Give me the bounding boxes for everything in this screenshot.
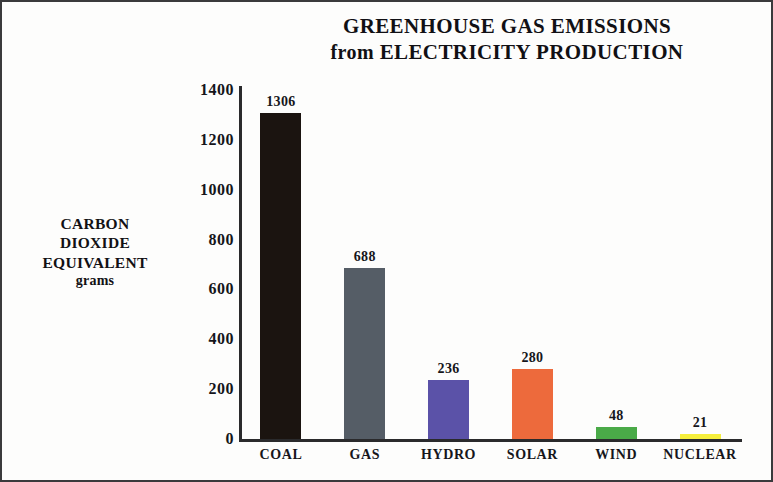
y-axis-units: grams — [24, 272, 166, 290]
y-axis-tick-1000: 1000 — [168, 181, 234, 199]
y-axis-tick-0: 0 — [168, 430, 234, 448]
x-axis-label-hydro: HYDRO — [407, 447, 490, 463]
y-axis-tick-labels: 1400120010008006004002000 — [162, 2, 234, 482]
chart-title-line-1: GREENHOUSE GAS EMISSIONS — [343, 14, 671, 38]
y-axis-tick-1400: 1400 — [168, 81, 234, 99]
chart-title: GREENHOUSE GAS EMISSIONS from ELECTRICIT… — [257, 14, 757, 65]
y-axis-tick-200: 200 — [168, 380, 234, 398]
bar-slot-gas: 688 — [323, 90, 406, 439]
bar-solar — [512, 369, 553, 439]
x-axis-label-solar: SOLAR — [491, 447, 574, 463]
y-axis-title-line-3: EQUIVALENT — [42, 254, 147, 271]
y-axis-title-line-1: CARBON — [61, 215, 130, 232]
x-axis-line — [239, 439, 742, 442]
y-axis-tick-800: 800 — [168, 231, 234, 249]
bar-value-label-hydro: 236 — [438, 361, 460, 377]
bar-gas — [344, 268, 385, 440]
bar-value-label-solar: 280 — [521, 350, 543, 366]
chart-title-line-2-rest: ELECTRICITY PRODUCTION — [380, 40, 684, 64]
bar-series: 13066882362804821 — [239, 90, 742, 439]
chart-figure: GREENHOUSE GAS EMISSIONS from ELECTRICIT… — [0, 0, 773, 482]
y-axis-tick-400: 400 — [168, 330, 234, 348]
bar-slot-hydro: 236 — [407, 90, 490, 439]
bar-nuclear — [680, 434, 721, 439]
plot-area: 13066882362804821 — [239, 90, 742, 439]
chart-title-line-2: from ELECTRICITY PRODUCTION — [257, 40, 757, 66]
bar-value-label-coal: 1306 — [266, 94, 295, 110]
bar-slot-coal: 1306 — [239, 90, 322, 439]
x-axis-category-labels: COALGASHYDROSOLARWINDNUCLEAR — [239, 447, 742, 463]
bar-slot-solar: 280 — [491, 90, 574, 439]
chart-title-line-2-lead: from — [331, 41, 374, 63]
bar-slot-nuclear: 21 — [658, 90, 741, 439]
bar-value-label-wind: 48 — [609, 408, 624, 424]
bar-hydro — [428, 380, 469, 439]
bar-value-label-gas: 688 — [354, 249, 376, 265]
x-axis-label-wind: WIND — [574, 447, 657, 463]
x-axis-label-nuclear: NUCLEAR — [658, 447, 741, 463]
bar-wind — [596, 427, 637, 439]
y-axis-tick-600: 600 — [168, 280, 234, 298]
y-axis-title: CARBON DIOXIDE EQUIVALENT grams — [24, 214, 166, 290]
y-axis-tick-1200: 1200 — [168, 131, 234, 149]
bar-coal — [260, 113, 301, 439]
x-axis-label-gas: GAS — [323, 447, 406, 463]
x-axis-label-coal: COAL — [239, 447, 322, 463]
bar-slot-wind: 48 — [574, 90, 657, 439]
y-axis-title-line-2: DIOXIDE — [60, 234, 130, 251]
bar-value-label-nuclear: 21 — [693, 415, 708, 431]
